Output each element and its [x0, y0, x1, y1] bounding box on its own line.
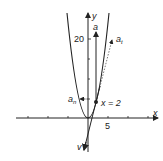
parabola-diagram: x 5 y 20 a at an v x = 2	[0, 0, 163, 161]
point-x-equals-2	[94, 100, 98, 104]
tangential-acceleration-label: at	[116, 34, 123, 45]
point-label: x = 2	[100, 98, 121, 108]
acceleration-label: a	[93, 22, 98, 32]
y-axis-label: y	[91, 11, 97, 21]
x-axis-label: x	[152, 108, 158, 118]
velocity-label: v	[77, 142, 82, 152]
velocity-vector	[84, 142, 86, 150]
x-tick-label-5: 5	[105, 121, 110, 131]
y-tick-label-20: 20	[74, 34, 84, 44]
normal-acceleration-label: an	[68, 94, 77, 105]
